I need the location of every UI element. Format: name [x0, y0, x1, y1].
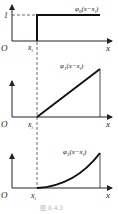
x-tick-xi: xi [30, 191, 37, 201]
ramp-curve [37, 69, 100, 117]
y-tick-1: 1 [4, 11, 8, 20]
x-axis-label: x [105, 43, 110, 53]
origin-label: O [1, 190, 8, 200]
parabola-curve [37, 153, 100, 188]
panel-phi2: O xi x φ2(x−xi) [1, 148, 112, 201]
x-axis-label: x [105, 190, 110, 200]
origin-label: O [1, 43, 8, 53]
figure-caption: 图 8.4.3 [40, 204, 63, 212]
origin-label: O [1, 119, 8, 129]
function-label: φ2(x−xi) [63, 148, 87, 157]
step-curve [37, 15, 100, 41]
x-tick-xi: xi [27, 43, 34, 53]
panel-phi0: 1 O xi x φ0(x−xi) [1, 5, 112, 53]
x-tick-xi: xi [27, 120, 34, 130]
figure-canvas: 1 O xi x φ0(x−xi) O xi x φ1(x−xi) O xi x… [0, 0, 118, 214]
function-label: φ1(x−xi) [60, 62, 84, 71]
panel-phi1: O xi x φ1(x−xi) [1, 62, 112, 130]
x-axis-label: x [105, 119, 110, 129]
function-label: φ0(x−xi) [75, 5, 99, 14]
